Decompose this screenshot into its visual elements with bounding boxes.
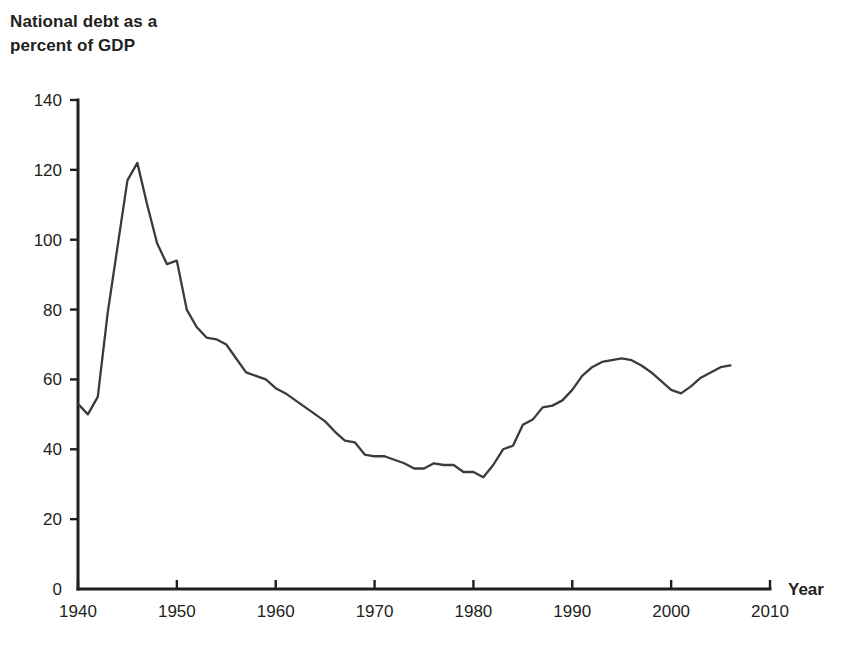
y-axis-tick-label: 100: [34, 231, 62, 250]
x-axis-tick-label: 1950: [158, 602, 196, 621]
x-axis-tick-label: 2010: [751, 602, 789, 621]
y-axis-tick-label: 0: [53, 580, 62, 599]
y-axis-tick-label: 120: [34, 161, 62, 180]
x-axis-tick-label: 1960: [257, 602, 295, 621]
x-axis-tick-label: 1970: [356, 602, 394, 621]
y-axis-tick-label: 20: [43, 510, 62, 529]
y-axis-tick-label: 60: [43, 370, 62, 389]
x-axis-tick-label: 1980: [455, 602, 493, 621]
chart-plot-area: 020406080100120140 194019501960197019801…: [0, 0, 851, 656]
x-axis-tick-label: 1990: [553, 602, 591, 621]
data-series-group: [78, 163, 730, 477]
y-axis: 020406080100120140: [34, 91, 78, 599]
chart-figure: National debt as a percent of GDP 020406…: [0, 0, 851, 656]
x-axis: 19401950196019701980199020002010: [59, 580, 789, 621]
y-axis-tick-label: 80: [43, 301, 62, 320]
x-axis-title: Year: [788, 580, 824, 599]
x-axis-tick-label: 2000: [652, 602, 690, 621]
x-axis-tick-label: 1940: [59, 602, 97, 621]
data-line-0: [78, 163, 730, 477]
y-axis-tick-label: 40: [43, 440, 62, 459]
x-axis-name-label: Year: [788, 580, 824, 599]
y-axis-tick-label: 140: [34, 91, 62, 110]
